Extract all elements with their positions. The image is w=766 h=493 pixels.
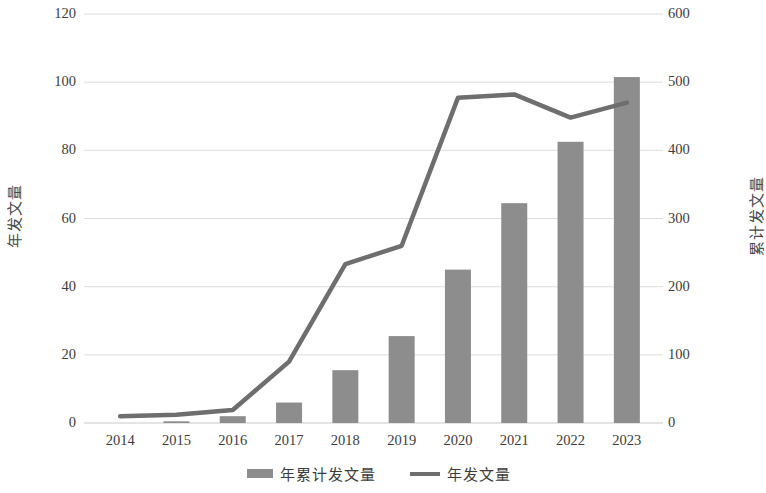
left-tick-100: 100 [36,73,76,90]
chart-legend: 年累计发文量 年发文量 [0,463,757,484]
right-tick-600: 600 [668,5,712,22]
right-tick-100: 100 [668,346,712,363]
left-tick-60: 60 [36,210,76,227]
left-tick-20: 20 [36,346,76,363]
right-axis-title: 累计发文量 [745,161,766,271]
bar-series [163,77,639,423]
right-tick-300: 300 [668,210,712,227]
legend-item-line[interactable]: 年发文量 [410,463,511,484]
left-axis-title: 年发文量 [3,171,24,261]
x-tick-2020: 2020 [430,432,486,449]
legend-label-line: 年发文量 [447,463,511,484]
right-tick-400: 400 [668,141,712,158]
line-series [120,94,627,416]
right-tick-500: 500 [668,73,712,90]
x-tick-2023: 2023 [599,432,655,449]
x-tick-2021: 2021 [486,432,542,449]
legend-label-bar: 年累计发文量 [280,463,376,484]
left-tick-0: 0 [36,414,76,431]
left-tick-120: 120 [36,5,76,22]
x-tick-2016: 2016 [205,432,261,449]
x-tick-2017: 2017 [261,432,317,449]
right-tick-200: 200 [668,278,712,295]
x-tick-2015: 2015 [148,432,204,449]
right-tick-0: 0 [668,414,712,431]
line-swatch-icon [410,472,440,476]
left-tick-80: 80 [36,141,76,158]
legend-item-bar[interactable]: 年累计发文量 [247,463,376,484]
bar-swatch-icon [247,469,273,478]
x-tick-2018: 2018 [317,432,373,449]
x-tick-2014: 2014 [92,432,148,449]
x-tick-2022: 2022 [543,432,599,449]
left-tick-40: 40 [36,278,76,295]
x-tick-2019: 2019 [374,432,430,449]
